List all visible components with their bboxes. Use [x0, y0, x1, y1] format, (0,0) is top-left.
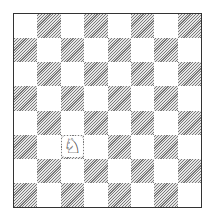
square-g7[interactable]: [154, 38, 177, 62]
square-h5[interactable]: [178, 86, 201, 110]
square-g2[interactable]: [154, 159, 177, 183]
square-a3[interactable]: [14, 135, 37, 159]
square-e1[interactable]: [108, 183, 131, 207]
square-c8[interactable]: [61, 14, 84, 38]
square-c4[interactable]: [61, 111, 84, 135]
square-e4[interactable]: [108, 111, 131, 135]
square-f5[interactable]: [131, 86, 154, 110]
square-f6[interactable]: [131, 62, 154, 86]
square-b8[interactable]: [37, 14, 60, 38]
square-e5[interactable]: [108, 86, 131, 110]
square-g6[interactable]: [154, 62, 177, 86]
square-a5[interactable]: [14, 86, 37, 110]
square-f4[interactable]: [131, 111, 154, 135]
square-h4[interactable]: [178, 111, 201, 135]
square-d3[interactable]: [84, 135, 107, 159]
square-c1[interactable]: [61, 183, 84, 207]
square-a8[interactable]: [14, 14, 37, 38]
square-a1[interactable]: [14, 183, 37, 207]
square-d2[interactable]: [84, 159, 107, 183]
square-f8[interactable]: [131, 14, 154, 38]
square-e3[interactable]: [108, 135, 131, 159]
square-c3[interactable]: ♘: [61, 135, 84, 159]
square-h3[interactable]: [178, 135, 201, 159]
chessboard: ♘: [13, 13, 202, 208]
square-b4[interactable]: [37, 111, 60, 135]
square-h6[interactable]: [178, 62, 201, 86]
square-a6[interactable]: [14, 62, 37, 86]
square-e6[interactable]: [108, 62, 131, 86]
square-g5[interactable]: [154, 86, 177, 110]
square-h1[interactable]: [178, 183, 201, 207]
square-f1[interactable]: [131, 183, 154, 207]
square-g3[interactable]: [154, 135, 177, 159]
square-d5[interactable]: [84, 86, 107, 110]
square-d1[interactable]: [84, 183, 107, 207]
square-b1[interactable]: [37, 183, 60, 207]
square-a7[interactable]: [14, 38, 37, 62]
square-g8[interactable]: [154, 14, 177, 38]
square-b5[interactable]: [37, 86, 60, 110]
white-knight-icon[interactable]: ♘: [62, 136, 83, 157]
square-d7[interactable]: [84, 38, 107, 62]
square-h2[interactable]: [178, 159, 201, 183]
square-c6[interactable]: [61, 62, 84, 86]
square-a2[interactable]: [14, 159, 37, 183]
square-e8[interactable]: [108, 14, 131, 38]
square-b6[interactable]: [37, 62, 60, 86]
square-h8[interactable]: [178, 14, 201, 38]
square-e2[interactable]: [108, 159, 131, 183]
square-c2[interactable]: [61, 159, 84, 183]
square-e7[interactable]: [108, 38, 131, 62]
square-d4[interactable]: [84, 111, 107, 135]
square-f7[interactable]: [131, 38, 154, 62]
square-f2[interactable]: [131, 159, 154, 183]
square-b3[interactable]: [37, 135, 60, 159]
square-f3[interactable]: [131, 135, 154, 159]
square-d8[interactable]: [84, 14, 107, 38]
square-g4[interactable]: [154, 111, 177, 135]
square-c5[interactable]: [61, 86, 84, 110]
square-g1[interactable]: [154, 183, 177, 207]
square-d6[interactable]: [84, 62, 107, 86]
square-b2[interactable]: [37, 159, 60, 183]
square-a4[interactable]: [14, 111, 37, 135]
square-b7[interactable]: [37, 38, 60, 62]
square-h7[interactable]: [178, 38, 201, 62]
square-c7[interactable]: [61, 38, 84, 62]
